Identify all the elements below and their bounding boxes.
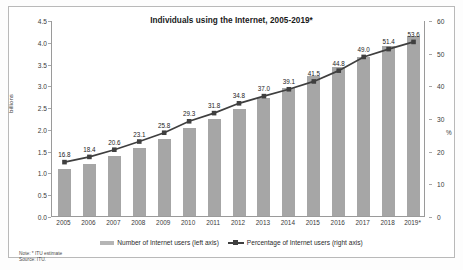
x-axis-tick-label: 2008 (131, 219, 145, 226)
x-axis-tick-label: 2018 (380, 219, 394, 226)
chart-legend: Number of Internet users (left axis) Per… (9, 239, 454, 246)
x-axis-tick-label: 2007 (106, 219, 120, 226)
line-marker-swatch-icon (228, 240, 244, 246)
line-marker (187, 119, 192, 124)
line-marker (237, 101, 242, 106)
line-marker (287, 87, 292, 92)
data-label: 49.0 (358, 46, 370, 53)
data-label: 23.1 (133, 131, 145, 138)
x-axis-tick-label: 2016 (331, 219, 345, 226)
line-marker (361, 55, 366, 60)
left-axis-tick: 0.5 (38, 192, 47, 199)
left-axis-tick: 1.0 (38, 170, 47, 177)
left-axis-tick: 1.5 (38, 148, 47, 155)
data-label: 31.8 (208, 102, 220, 109)
left-axis-tick: 2.5 (38, 105, 47, 112)
x-axis-tick-label: 2013 (256, 219, 270, 226)
legend-item-bar: Number of Internet users (left axis) (100, 239, 219, 246)
right-axis-tick: 30 (437, 116, 444, 123)
line-marker (411, 40, 416, 45)
data-label: 34.8 (233, 92, 245, 99)
x-axis-labels: 2005200620072008200920102011201220132014… (51, 219, 425, 233)
data-label: 53.6 (407, 31, 419, 38)
line-marker (262, 94, 267, 99)
line-marker (386, 47, 391, 52)
left-axis-tick: 2.0 (38, 126, 47, 133)
chart-card: Individuals using the Internet, 2005-201… (8, 6, 455, 258)
line-marker (87, 155, 92, 160)
legend-item-line: Percentage of Internet users (right axis… (228, 239, 363, 246)
right-axis-tick: 20 (437, 148, 444, 155)
data-label: 29.3 (183, 110, 195, 117)
right-axis-tick: 10 (437, 181, 444, 188)
x-axis-tick-label: 2019* (404, 219, 421, 226)
line-marker (336, 68, 341, 73)
line-marker (312, 79, 317, 84)
left-axis: 0.00.51.01.52.02.53.03.54.04.5 (17, 21, 47, 217)
x-axis-tick-label: 2009 (156, 219, 170, 226)
x-axis-tick-label: 2015 (306, 219, 320, 226)
right-axis-tickmark (429, 184, 432, 185)
footnote-source: Source: ITU. (19, 257, 62, 263)
left-axis-tickmark (48, 217, 51, 218)
right-axis-tick: 0 (437, 214, 441, 221)
data-label: 25.8 (158, 122, 170, 129)
data-label: 39.1 (283, 78, 295, 85)
left-axis-tick: 4.0 (38, 39, 47, 46)
x-axis-tick-label: 2005 (56, 219, 70, 226)
right-axis-tickmark (429, 119, 432, 120)
bar-swatch-icon (100, 241, 114, 245)
data-label: 20.6 (108, 139, 120, 146)
line-marker (162, 130, 167, 135)
right-axis-title: % (446, 129, 452, 136)
right-axis-tickmark (429, 86, 432, 87)
x-axis-tick-label: 2011 (206, 219, 220, 226)
line-marker (112, 147, 117, 152)
left-axis-tick: 3.5 (38, 61, 47, 68)
right-axis-tickmark (429, 21, 432, 22)
right-axis-tick: 40 (437, 83, 444, 90)
right-axis-tickmark (429, 54, 432, 55)
left-axis-tick: 4.5 (38, 18, 47, 25)
line-series (52, 21, 426, 217)
data-label: 18.4 (83, 146, 95, 153)
data-label: 37.0 (258, 85, 270, 92)
left-axis-title: billions (7, 94, 14, 113)
right-axis-tick: 60 (437, 18, 444, 25)
data-label: 16.8 (58, 151, 70, 158)
x-axis-tick-label: 2017 (356, 219, 370, 226)
data-label: 51.4 (382, 38, 394, 45)
legend-label-line: Percentage of Internet users (right axis… (247, 239, 363, 246)
legend-label-bar: Number of Internet users (left axis) (117, 239, 219, 246)
line-marker (137, 139, 142, 144)
x-axis-tick-label: 2010 (181, 219, 195, 226)
x-axis-tick-label: 2006 (81, 219, 95, 226)
left-axis-tick: 0.0 (38, 214, 47, 221)
line-marker (212, 111, 217, 116)
plot-area: 16.818.420.623.125.829.331.834.837.039.1… (51, 21, 425, 217)
x-axis-tick-label: 2014 (281, 219, 295, 226)
right-axis-tick: 50 (437, 50, 444, 57)
data-label: 44.8 (333, 60, 345, 67)
right-axis-tickmark (429, 152, 432, 153)
chart-page: Individuals using the Internet, 2005-201… (0, 0, 463, 270)
left-axis-tick: 3.0 (38, 83, 47, 90)
right-axis-tickmark (429, 217, 432, 218)
right-axis: 0102030405060 (429, 21, 459, 217)
data-label: 41.5 (308, 70, 320, 77)
line-marker (62, 160, 67, 165)
footnote: Note: * ITU estimate Source: ITU. (19, 251, 62, 263)
x-axis-tick-label: 2012 (231, 219, 245, 226)
